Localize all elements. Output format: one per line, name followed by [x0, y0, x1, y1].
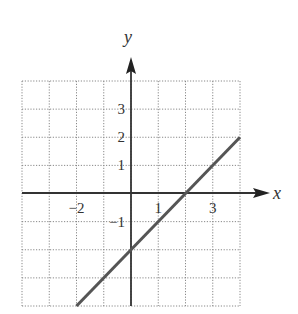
coordinate-plane: x y −213 321−1 — [0, 0, 298, 314]
y-tick-label: 3 — [118, 101, 126, 117]
x-tick-label: −2 — [69, 200, 85, 216]
x-tick-label: 3 — [209, 200, 217, 216]
x-axis-label: x — [272, 183, 281, 203]
y-tick-label: 2 — [118, 129, 126, 145]
y-tick-labels: 321−1 — [109, 101, 125, 230]
axes — [22, 57, 270, 306]
y-tick-label: 1 — [118, 157, 126, 173]
x-tick-labels: −213 — [69, 200, 217, 216]
y-axis-label: y — [122, 27, 132, 47]
x-tick-label: 1 — [155, 200, 163, 216]
y-tick-label: −1 — [109, 214, 125, 230]
